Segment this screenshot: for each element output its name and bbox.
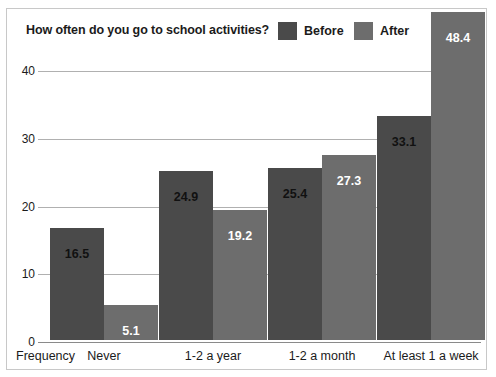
bar-before-1-2-a-year[interactable]: 24.9 <box>159 171 213 340</box>
bar-value-label: 33.1 <box>377 135 431 149</box>
bar-before-1-2-a-month[interactable]: 25.4 <box>268 168 322 340</box>
category-label-1-2-a-month: 1-2 a month <box>268 349 376 363</box>
bar-after-1-2-a-month[interactable]: 27.3 <box>322 155 376 340</box>
category-label-at-least-1-a-week: At least 1 a week <box>377 349 485 363</box>
bar-after-never[interactable]: 5.1 <box>104 305 158 340</box>
bar-before-never[interactable]: 16.5 <box>50 228 104 340</box>
x-axis-category-labels: Frequency Never1-2 a year1-2 a monthAt l… <box>7 345 486 371</box>
bar-value-label: 25.4 <box>268 187 322 201</box>
bar-value-label: 19.2 <box>213 229 267 243</box>
bar-value-label: 24.9 <box>159 190 213 204</box>
bar-value-label: 16.5 <box>50 247 104 261</box>
bar-value-label: 5.1 <box>104 324 158 338</box>
bar-before-at-least-1-a-week[interactable]: 33.1 <box>377 116 431 340</box>
bars-layer: 16.55.124.919.225.427.333.148.4 <box>7 9 486 369</box>
bar-value-label: 27.3 <box>322 174 376 188</box>
chart-frame: How often do you go to school activities… <box>6 8 487 370</box>
category-label-never: Never <box>50 349 158 363</box>
bar-after-1-2-a-year[interactable]: 19.2 <box>213 210 267 340</box>
bar-value-label: 48.4 <box>431 31 485 45</box>
plot-area: 010203040 16.55.124.919.225.427.333.148.… <box>7 9 486 369</box>
bar-after-at-least-1-a-week[interactable]: 48.4 <box>431 12 485 340</box>
category-label-1-2-a-year: 1-2 a year <box>159 349 267 363</box>
